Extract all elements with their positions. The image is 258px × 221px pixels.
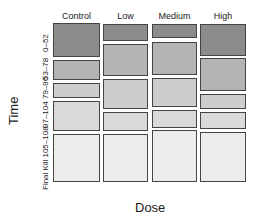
row-label-0-52: 0–52 — [41, 34, 50, 52]
tile-high-79-96 — [200, 94, 246, 109]
tile-low-0-52 — [103, 24, 148, 41]
tile-medium-79-96 — [152, 78, 197, 107]
tile-medium-0-52 — [152, 24, 197, 38]
tile-high-53-78 — [200, 58, 246, 91]
column-label-low: Low — [103, 11, 148, 21]
tile-high-final — [200, 132, 246, 182]
tile-control-0-52 — [53, 23, 100, 57]
row-label-79-96: 79–96 — [41, 77, 50, 99]
tile-low-final — [103, 134, 148, 182]
tile-medium-final — [152, 130, 197, 182]
column-label-medium: Medium — [152, 11, 197, 21]
tile-medium-97-104 — [152, 110, 197, 128]
column-label-control: Control — [53, 11, 100, 21]
row-label-97-104: 97–104 — [41, 101, 50, 128]
x-axis-title: Dose — [135, 200, 165, 215]
tile-control-final — [53, 134, 100, 182]
tile-high-97-104 — [200, 112, 246, 129]
row-label-final-kill: Final Kill 105–108 — [41, 126, 50, 190]
mosaic-chart: Control Low Medium High 0–52 53–78 79–96… — [0, 0, 258, 221]
y-axis-title: Time — [6, 97, 21, 125]
tile-control-79-96 — [53, 83, 100, 98]
tile-low-79-96 — [103, 79, 148, 109]
tile-control-97-104 — [53, 101, 100, 131]
tile-low-53-78 — [103, 44, 148, 76]
tile-medium-53-78 — [152, 42, 197, 75]
tile-control-53-78 — [53, 60, 100, 80]
tile-high-0-52 — [200, 24, 246, 56]
column-label-high: High — [200, 11, 246, 21]
tile-low-97-104 — [103, 112, 148, 131]
